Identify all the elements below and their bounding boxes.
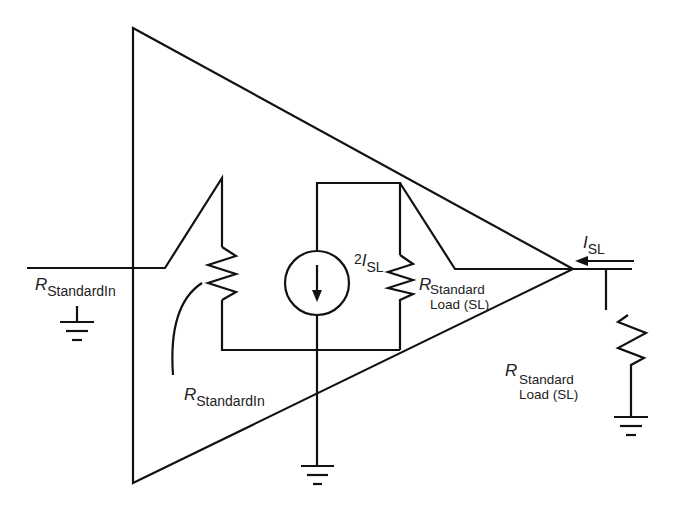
- label-current-source: 2ISL: [354, 252, 384, 269]
- ground-icon-input: [60, 306, 94, 340]
- input-resistor-zigzag: [208, 247, 236, 300]
- output-feed-wire: [400, 183, 573, 269]
- label-output-current: ISL: [583, 234, 605, 251]
- inner-top-rail: [317, 183, 400, 255]
- label-r-standardin-left: RStandardIn: [35, 276, 116, 293]
- ground-icon-center: [301, 466, 334, 484]
- inner-bottom-rail: [222, 300, 400, 350]
- circuit-diagram: [0, 0, 676, 511]
- input-resistor-pointer: [172, 283, 202, 375]
- arrow-down-icon: [312, 290, 322, 302]
- input-wire: [27, 178, 222, 268]
- label-r-load-external-symbol: R: [505, 362, 517, 379]
- ground-icon-output: [614, 417, 648, 435]
- external-load-resistor-zigzag: [618, 315, 646, 417]
- arrow-left-icon: [575, 256, 588, 266]
- amplifier-triangle: [133, 28, 573, 483]
- label-r-load-inner-subscript: Standard Load (SL): [430, 282, 489, 312]
- inner-load-resistor-zigzag: [388, 255, 413, 350]
- label-r-load-external-subscript: Standard Load (SL): [519, 372, 578, 402]
- label-r-standardin-inner: RStandardIn: [184, 386, 265, 403]
